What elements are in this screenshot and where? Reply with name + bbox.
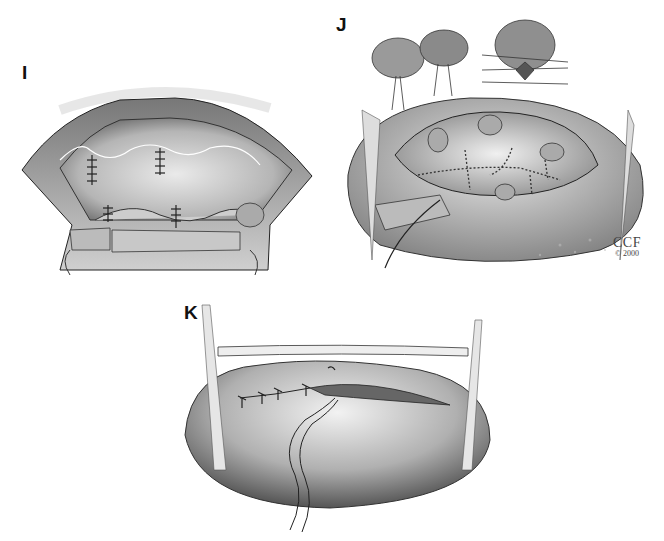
credit-line-1: CCF: [602, 236, 652, 250]
panel-i: I: [0, 40, 320, 290]
chordae-inset-2: [420, 30, 468, 96]
panel-j: J: [330, 0, 664, 290]
chordae-inset-1: [372, 38, 424, 110]
panel-k: K: [160, 290, 500, 541]
closure-illustration-k: [160, 290, 500, 541]
valve-illustration-i: [0, 40, 320, 290]
credit-line-2: © 2000: [602, 250, 652, 258]
chordae-inset-3: [482, 20, 568, 84]
copyright-credit: CCF © 2000: [602, 236, 652, 258]
